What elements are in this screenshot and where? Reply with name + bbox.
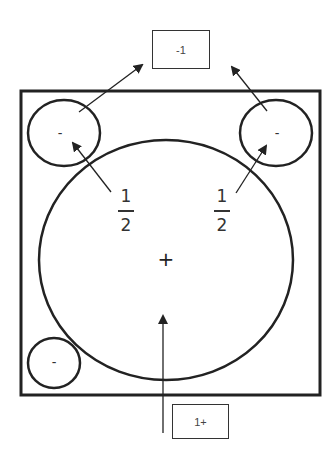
fraction-right-denominator: 2 bbox=[212, 217, 232, 234]
top-result-box: -1 bbox=[152, 30, 210, 69]
fraction-right-numerator: 1 bbox=[212, 188, 232, 205]
bottom-box-label: 1+ bbox=[194, 416, 207, 428]
fraction-left: 1 2 bbox=[116, 188, 136, 234]
sign-large-circle: + bbox=[158, 247, 175, 271]
arrow-left-to-top-box bbox=[79, 65, 142, 112]
fraction-left-numerator: 1 bbox=[116, 188, 136, 205]
sign-bottom-left: - bbox=[52, 354, 57, 370]
arrow-fraction-left-to-circle bbox=[73, 143, 111, 192]
fraction-right-bar bbox=[214, 210, 230, 212]
sign-top-left: - bbox=[58, 125, 63, 141]
fraction-left-denominator: 2 bbox=[116, 217, 136, 234]
arrow-fraction-right-to-circle bbox=[236, 146, 266, 193]
fraction-left-bar bbox=[118, 210, 134, 212]
sign-top-right: - bbox=[275, 125, 280, 141]
small-circle-top-left bbox=[28, 100, 100, 166]
top-box-label: -1 bbox=[176, 44, 186, 56]
fraction-right: 1 2 bbox=[212, 188, 232, 234]
arrow-right-to-top-box bbox=[232, 67, 267, 111]
bottom-input-box: 1+ bbox=[172, 404, 229, 439]
